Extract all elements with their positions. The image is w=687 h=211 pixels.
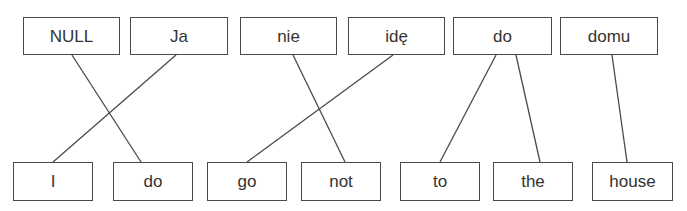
word-label: the (521, 173, 545, 190)
word-label: domu (588, 28, 631, 45)
word-label: do (493, 28, 512, 45)
source-word-nie: nie (240, 17, 337, 55)
alignment-line (247, 55, 393, 162)
word-label: idę (385, 28, 408, 45)
word-label: do (144, 173, 163, 190)
word-label: NULL (50, 28, 93, 45)
word-label: house (609, 173, 655, 190)
target-word-do: do (113, 162, 193, 201)
word-alignment-diagram: NULL Ja nie idę do domu I do go not to t… (0, 0, 687, 211)
target-word-i: I (13, 162, 93, 201)
word-label: I (51, 173, 56, 190)
alignment-line (612, 55, 627, 162)
alignment-line (440, 55, 496, 162)
source-word-domu: domu (560, 17, 658, 55)
source-word-null: NULL (23, 17, 120, 55)
source-word-ja: Ja (130, 17, 228, 55)
target-word-house: house (592, 162, 673, 201)
word-label: Ja (170, 28, 188, 45)
word-label: go (238, 173, 257, 190)
source-word-do: do (453, 17, 552, 55)
alignment-line (516, 55, 540, 162)
word-label: to (433, 173, 447, 190)
target-word-not: not (301, 162, 381, 201)
alignment-line (72, 55, 141, 162)
word-label: nie (277, 28, 300, 45)
target-word-the: the (493, 162, 573, 201)
target-word-go: go (207, 162, 287, 201)
word-label: not (329, 173, 353, 190)
source-word-ide: idę (348, 17, 445, 55)
target-word-to: to (400, 162, 480, 201)
alignment-line (53, 55, 176, 162)
